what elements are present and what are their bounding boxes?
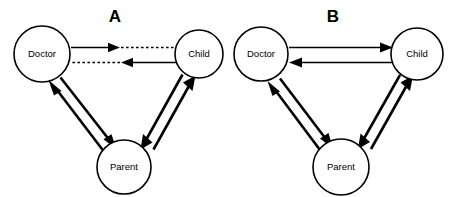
edge-a-doctor-parent-pair bbox=[49, 78, 117, 152]
diagram-canvas: A bbox=[0, 0, 455, 197]
panel-b-letter: B bbox=[327, 7, 339, 26]
edge-b-doctor-to-parent bbox=[280, 79, 333, 149]
node-b-child-label: Child bbox=[406, 48, 428, 59]
edge-b-doctor-parent-pair bbox=[268, 79, 334, 151]
edge-b-child-to-doctor bbox=[289, 58, 392, 68]
arrowhead-a-child-to-doctor bbox=[121, 58, 133, 67]
edge-a-doctor-to-parent bbox=[61, 78, 117, 150]
edge-b-child-to-parent bbox=[358, 75, 400, 149]
arrowhead-b-child-to-doctor bbox=[289, 58, 302, 68]
node-a-parent-label: Parent bbox=[110, 161, 138, 172]
edge-a-child-to-parent bbox=[141, 75, 183, 150]
edge-b-parent-doctor-shaft bbox=[274, 89, 320, 151]
edge-a-child-to-doctor bbox=[70, 58, 176, 67]
node-a-child-label: Child bbox=[188, 48, 210, 59]
panel-a: A bbox=[14, 7, 223, 194]
edge-b-doctor-parent-shaft bbox=[280, 79, 327, 141]
node-b-doctor[interactable]: Doctor bbox=[234, 27, 288, 81]
edge-a-doctor-parent-shaft bbox=[61, 78, 111, 142]
edge-b-doctor-to-child bbox=[289, 43, 393, 53]
node-a-doctor-label: Doctor bbox=[28, 48, 56, 59]
node-a-parent[interactable]: Parent bbox=[97, 140, 151, 194]
edge-a-child-parent-pair bbox=[141, 75, 196, 150]
node-a-doctor[interactable]: Doctor bbox=[14, 26, 70, 82]
node-b-parent[interactable]: Parent bbox=[313, 139, 369, 195]
edge-a-parent-to-doctor bbox=[49, 80, 104, 151]
panel-b: B bbox=[234, 7, 443, 195]
arrowhead-a-doctor-to-child bbox=[108, 43, 120, 52]
edge-a-parent-doctor-shaft bbox=[56, 88, 104, 151]
node-b-child[interactable]: Child bbox=[391, 28, 443, 80]
node-b-doctor-label: Doctor bbox=[247, 48, 275, 59]
edge-a-doctor-to-child bbox=[71, 43, 176, 52]
edge-b-child-parent-pair bbox=[358, 75, 413, 149]
panel-a-letter: A bbox=[109, 7, 121, 26]
node-a-child[interactable]: Child bbox=[175, 30, 223, 78]
edge-b-parent-to-doctor bbox=[268, 81, 321, 150]
node-b-parent-label: Parent bbox=[327, 161, 355, 172]
figure-container: A bbox=[0, 0, 455, 197]
